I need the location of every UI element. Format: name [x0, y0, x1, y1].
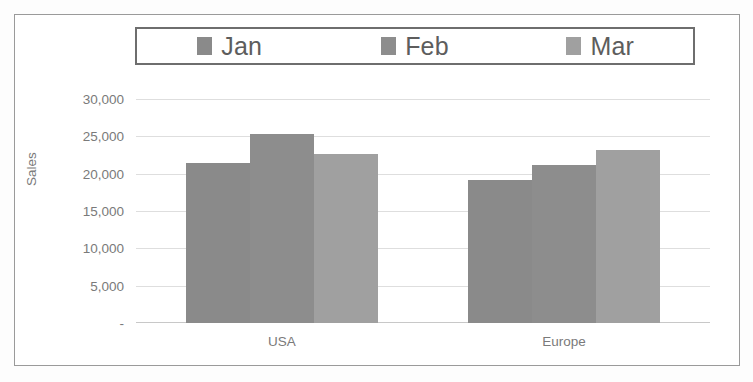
legend-label-mar: Mar [590, 34, 634, 59]
bar-europe-jan [468, 180, 532, 323]
y-tick-30000: 30,000 [48, 92, 124, 107]
x-tick-europe: Europe [542, 334, 586, 349]
bar-usa-jan [186, 163, 250, 323]
bar-chart-image: Jan Feb Mar Sales 30,000 25,000 20,000 1… [0, 0, 753, 382]
y-tick-10000: 10,000 [48, 241, 124, 256]
bar-group-europe [468, 99, 660, 323]
legend-swatch-jan [197, 37, 212, 55]
y-tick-0: - [48, 316, 124, 331]
bar-group-usa [186, 99, 378, 323]
legend-label-jan: Jan [221, 34, 262, 59]
x-tick-usa: USA [268, 334, 296, 349]
legend-item-jan: Jan [137, 34, 322, 59]
plot-area [136, 99, 710, 323]
y-tick-25000: 25,000 [48, 129, 124, 144]
legend-swatch-feb [381, 37, 396, 55]
bar-usa-feb [250, 134, 314, 323]
y-axis-tick-labels: 30,000 25,000 20,000 15,000 10,000 5,000… [48, 99, 124, 323]
bar-europe-feb [532, 165, 596, 323]
y-tick-20000: 20,000 [48, 166, 124, 181]
y-tick-15000: 15,000 [48, 204, 124, 219]
chart-legend: Jan Feb Mar [135, 27, 695, 65]
bar-usa-mar [314, 154, 378, 323]
legend-item-feb: Feb [322, 34, 507, 59]
y-axis-title: Sales [24, 152, 39, 186]
x-axis-category-labels: USA Europe [136, 334, 710, 356]
y-tick-5000: 5,000 [48, 278, 124, 293]
bar-europe-mar [596, 150, 660, 323]
legend-swatch-mar [566, 37, 581, 55]
legend-item-mar: Mar [508, 34, 693, 59]
legend-label-feb: Feb [405, 34, 449, 59]
